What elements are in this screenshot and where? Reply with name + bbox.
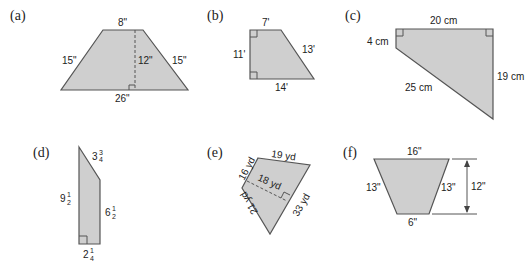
dim-bottom: 14' [275,82,288,93]
dim-right: 19 cm [497,71,524,82]
trapezoid-shape [396,29,493,119]
figure-c: (c) 20 cm 4 cm 19 cm 25 cm [345,8,524,119]
dim-right: 6 1 2 [105,205,116,220]
dim-right: 15" [172,55,187,66]
dim-left: 4 cm [367,36,389,47]
figure-a: (a) 8" 15" 12" 15" 26" [10,8,188,104]
arrow-down-icon [464,206,470,213]
dim-top-slant: 3 3 4 [92,149,103,163]
dim-top: 20 cm [430,15,457,26]
dim-left: 15" [62,55,77,66]
figure-d: (d) 3 3 4 9 1 2 6 1 2 2 1 4 [33,145,116,262]
svg-text:1: 1 [90,247,94,254]
svg-text:6: 6 [105,207,111,218]
dim-left: 11' [233,49,245,60]
dim-right: 13" [441,182,456,193]
svg-text:1: 1 [112,205,116,212]
dim-top: 16" [407,146,422,157]
dim-height: 12" [471,181,486,192]
trapezoid-shape [374,159,449,214]
dim-left: 13" [366,182,381,193]
dim-right: 33 yd [290,191,312,218]
arrow-up-icon [464,160,470,167]
figure-e: (e) 19 yd 16 yd 18 yd 33 yd 21 yd [207,145,312,234]
svg-text:2: 2 [67,199,71,206]
figure-f: (f) 16" 13" 13" 12" 6" [343,145,490,228]
dim-left: 9 1 2 [60,191,71,206]
dim-slant: 25 cm [405,82,432,93]
trapezoid-shape [61,30,188,90]
figure-label: (a) [10,8,26,24]
figure-label: (c) [345,8,361,24]
dim-bottom: 2 1 4 [83,247,94,262]
dim-top: 7' [262,17,270,28]
figure-label: (b) [207,8,224,24]
svg-text:3: 3 [92,151,98,162]
svg-text:9: 9 [60,193,66,204]
geometry-figures: (a) 8" 15" 12" 15" 26" (b) 7' 11' 13' 14… [0,0,531,265]
figure-label: (f) [343,145,357,161]
dim-bottom: 6" [408,217,418,228]
dim-height: 12" [138,55,153,66]
dim-right: 13' [302,44,315,55]
svg-text:2: 2 [112,213,116,220]
dim-bottom: 26" [115,93,130,104]
svg-text:3: 3 [99,149,103,156]
figure-b: (b) 7' 11' 13' 14' [207,8,315,93]
figure-label: (d) [33,145,50,161]
figure-label: (e) [207,145,223,161]
dim-top: 8" [118,17,128,28]
svg-text:1: 1 [67,191,71,198]
svg-text:2: 2 [83,249,89,260]
svg-text:4: 4 [99,156,103,163]
svg-text:4: 4 [90,255,94,262]
